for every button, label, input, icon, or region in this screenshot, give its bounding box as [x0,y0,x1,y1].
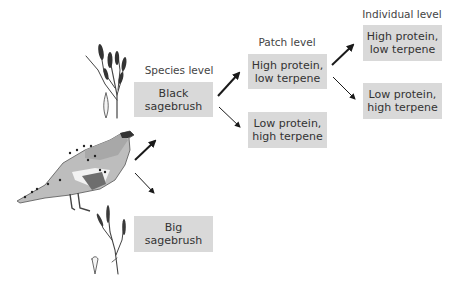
patch-level-label: Patch level [255,36,319,48]
arrow-species-to-patch-low [219,107,240,127]
arrow-grouse-to-black-sagebrush [135,141,155,160]
species-box-black-sagebrush: Black sagebrush [134,82,213,117]
big-sagebrush-illustration-icon [92,205,126,274]
box-line-1: High protein, [367,30,438,43]
box-line-2: high terpene [367,101,438,114]
box-line-2: high terpene [252,130,323,143]
box-line-1: Black [145,87,202,100]
arrow-species-to-patch-high [218,73,239,96]
box-line-1: Low protein, [252,117,323,130]
box-line-1: High protein, [252,59,323,72]
box-line-2: sagebrush [145,100,202,113]
box-line-1: Big [145,221,202,234]
individual-level-label: Individual level [362,8,442,20]
box-line-2: low terpene [367,43,438,56]
arrow-patch-to-individual-low [333,77,355,99]
patch-box-low-protein: Low protein, high terpene [248,112,327,148]
species-level-label: Species level [143,64,215,76]
box-line-2: low terpene [252,72,323,85]
patch-box-high-protein: High protein, low terpene [248,54,327,89]
arrow-grouse-to-big-sagebrush [135,173,154,193]
sage-grouse-illustration-icon [17,131,134,211]
box-line-1: Low protein, [367,88,438,101]
black-sagebrush-illustration-icon [86,44,127,118]
species-box-big-sagebrush: Big sagebrush [134,216,213,252]
box-line-2: sagebrush [145,234,202,247]
individual-box-high-protein: High protein, low terpene [363,25,442,61]
individual-box-low-protein: Low protein, high terpene [363,83,442,119]
arrow-patch-to-individual-high [332,45,353,65]
